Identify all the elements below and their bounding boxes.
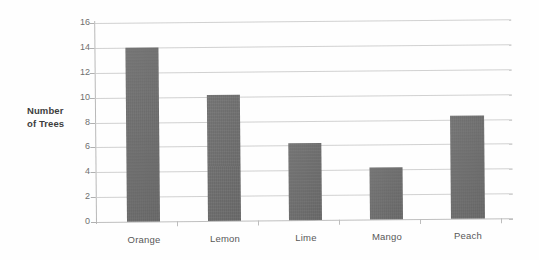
category-tick	[420, 219, 421, 224]
category-tick	[258, 221, 259, 226]
category-tick	[177, 221, 178, 226]
y-axis-tick	[91, 222, 96, 223]
plot-area	[94, 19, 513, 222]
y-axis-tick	[91, 172, 96, 173]
bar-lemon	[207, 95, 241, 221]
bar-mango	[370, 167, 403, 220]
y-axis-tick	[89, 48, 94, 49]
y-axis-tick	[91, 197, 96, 198]
bar-peach	[450, 115, 485, 219]
bar-lime	[288, 143, 322, 220]
category-tick	[501, 218, 502, 223]
y-axis-tick	[90, 98, 95, 99]
category-label-lime: Lime	[295, 232, 316, 243]
gridline	[94, 19, 511, 24]
y-axis-tick	[90, 123, 95, 124]
category-label-mango: Mango	[372, 231, 402, 242]
bar-orange	[125, 47, 160, 221]
bar-chart: Number of Trees 16 14 12 10 8 6 4 2 0	[0, 0, 539, 260]
x-axis-category-labels: Orange Lemon Lime Mango Peach	[0, 233, 539, 253]
y-axis-tick	[90, 73, 95, 74]
plot-skew-wrapper	[0, 0, 539, 260]
y-axis-tick	[90, 147, 95, 148]
y-axis-tick	[89, 23, 94, 24]
category-label-peach: Peach	[454, 230, 482, 241]
category-label-lemon: Lemon	[210, 233, 240, 244]
category-label-orange: Orange	[128, 234, 161, 245]
category-tick	[339, 220, 340, 225]
